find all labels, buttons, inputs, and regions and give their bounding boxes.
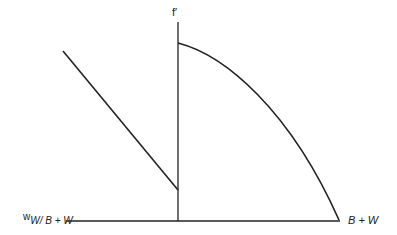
diagram-svg — [0, 0, 397, 235]
diagram-canvas: f′ wW/ B + W B + W — [0, 0, 397, 235]
right-axis-label: B + W — [348, 214, 378, 226]
descending-straight-line — [63, 51, 178, 190]
left-axis-label: wW/ B + W — [23, 213, 73, 225]
left-axis-label-subscript: W/ B + W — [30, 215, 73, 226]
vertical-axis-label: f′ — [172, 6, 177, 18]
concave-curve — [178, 43, 339, 220]
